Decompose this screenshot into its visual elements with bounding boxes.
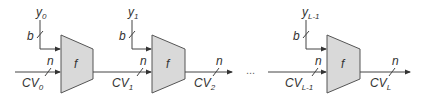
y0-input-wire	[40, 20, 60, 49]
stage-last: yL-1 b n CVL-1 f n CVL	[268, 5, 410, 93]
n-label: n	[140, 54, 147, 68]
n-label: n	[315, 54, 322, 68]
cv0-label: CV0	[22, 76, 44, 92]
ellipsis: ...	[246, 64, 255, 76]
cv1-label: CV1	[112, 76, 133, 92]
n-label: n	[392, 54, 399, 68]
y1-input-wire	[132, 20, 151, 49]
cv-l-minus-1-label: CVL-1	[285, 76, 313, 92]
n-label: n	[216, 54, 223, 68]
b-label: b	[27, 29, 34, 43]
cv-l-label: CVL	[370, 76, 391, 92]
stage-1: y1 b n CV1 f n CV2	[112, 5, 232, 93]
chained-compression-diagram: y0 b n CV0 f y1 b n CV1 f n CV2 ... yL-1…	[0, 0, 422, 97]
y0-label: y0	[35, 5, 47, 21]
n-label: n	[47, 54, 54, 68]
y-l-minus-1-input-wire	[306, 20, 326, 49]
stage-0: y0 b n CV0 f	[15, 5, 93, 93]
y-l-minus-1-label: yL-1	[301, 5, 320, 21]
b-label: b	[119, 29, 126, 43]
y1-label: y1	[127, 5, 138, 21]
b-label: b	[293, 29, 300, 43]
cv2-label: CV2	[194, 76, 216, 92]
